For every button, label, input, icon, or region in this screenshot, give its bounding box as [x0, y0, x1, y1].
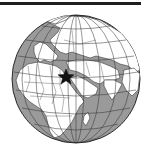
- locator-globe: [0, 0, 149, 155]
